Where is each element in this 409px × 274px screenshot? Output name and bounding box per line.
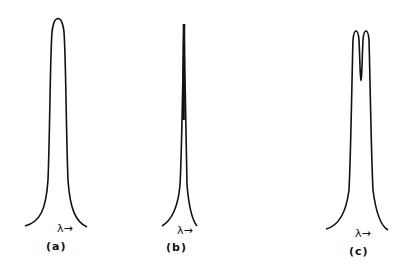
panel-a-axis-label: λ→ bbox=[57, 222, 73, 235]
profile-b-core bbox=[184, 24, 185, 120]
panel-c-axis-label: λ→ bbox=[355, 227, 371, 240]
panel-b-axis-label: λ→ bbox=[177, 224, 193, 237]
profile-a-curve bbox=[25, 19, 87, 228]
profile-c-curve bbox=[326, 31, 388, 230]
panel-a-caption: (a) bbox=[46, 240, 66, 253]
panel-c-caption: (c) bbox=[349, 245, 369, 258]
arrow-right-icon: → bbox=[64, 222, 73, 235]
panel-b-caption: (b) bbox=[166, 241, 187, 254]
arrow-right-icon: → bbox=[184, 224, 193, 237]
profile-b-curve bbox=[162, 24, 197, 226]
arrow-right-icon: → bbox=[362, 227, 371, 240]
